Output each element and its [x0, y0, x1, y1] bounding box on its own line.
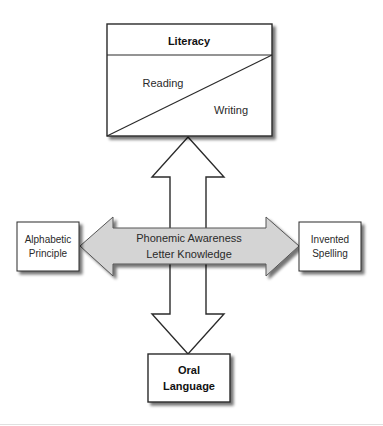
- invented-label: Invented: [311, 234, 349, 245]
- letter-knowledge-label: Letter Knowledge: [146, 248, 232, 260]
- oral-language-box: Oral Language: [148, 354, 230, 402]
- writing-label: Writing: [214, 104, 248, 116]
- alphabetic-label: Alphabetic: [25, 234, 72, 245]
- alphabetic-principle-box: Alphabetic Principle: [17, 222, 79, 271]
- oral-label: Oral: [178, 364, 200, 376]
- principle-label: Principle: [29, 248, 68, 259]
- literacy-diagram: Phonemic Awareness Letter Knowledge Lite…: [0, 0, 383, 426]
- language-label: Language: [163, 380, 215, 392]
- reading-label: Reading: [143, 77, 184, 89]
- spelling-label: Spelling: [312, 248, 348, 259]
- invented-spelling-box: Invented Spelling: [299, 222, 361, 271]
- phonemic-awareness-label: Phonemic Awareness: [136, 232, 242, 244]
- literacy-title: Literacy: [168, 35, 211, 47]
- literacy-box: Literacy Reading Writing: [107, 24, 272, 136]
